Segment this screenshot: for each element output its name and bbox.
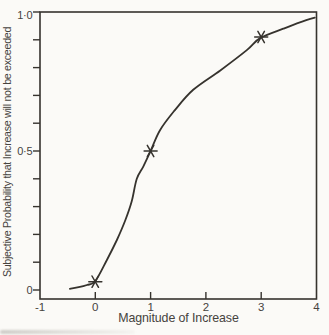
y-tick-label: 0·5 <box>17 145 32 157</box>
y-tick-label: 1·0 <box>17 9 32 21</box>
scan-artifact <box>0 330 135 334</box>
chart-canvas: 00·51·0-101234 <box>0 0 329 335</box>
y-tick-label: 0 <box>27 284 33 296</box>
asterisk-marker <box>89 276 102 287</box>
probability-curve <box>70 18 315 289</box>
asterisk-marker <box>144 145 157 156</box>
y-axis-title: Subjective Probability that Increase wil… <box>1 7 13 297</box>
plot-frame <box>40 12 317 299</box>
subjective-probability-figure: 00·51·0-101234 Subjective Probability th… <box>0 0 329 335</box>
x-axis-title: Magnitude of Increase <box>40 311 317 325</box>
